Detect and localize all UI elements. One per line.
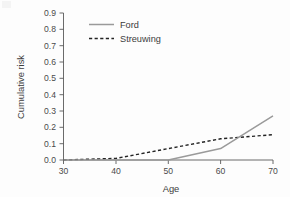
x-tick-label: 50 [164,166,174,176]
y-tick-label: 0.4 [44,90,56,100]
scan-artifact [2,1,11,8]
y-axis-title: Cumulative risk [15,55,26,119]
x-axis-title: Age [163,183,180,194]
y-tick-label: 0.5 [44,73,56,83]
y-tick-label: 0.6 [44,57,56,67]
y-tick-label: 0.9 [44,8,56,18]
x-tick-label: 70 [268,166,278,176]
y-tick-label: 0.3 [44,106,56,116]
y-tick-label: 0.0 [44,155,56,165]
y-tick-label: 0.1 [44,139,56,149]
x-tick-label: 30 [59,166,69,176]
chart-figure: 0.0 0.1 0.2 0.3 0.4 0.5 0.6 0.7 0.8 0.9 … [0,0,290,197]
y-tick-label: 0.7 [44,41,56,51]
y-tick-label: 0.8 [44,24,56,34]
x-tick-label: 60 [216,166,226,176]
x-tick-label: 40 [111,166,121,176]
legend-label-ford: Ford [120,20,139,30]
legend-label-streuwing: Streuwing [120,34,161,44]
y-tick-label: 0.2 [44,122,56,132]
chart-svg: 0.0 0.1 0.2 0.3 0.4 0.5 0.6 0.7 0.8 0.9 … [0,0,290,197]
